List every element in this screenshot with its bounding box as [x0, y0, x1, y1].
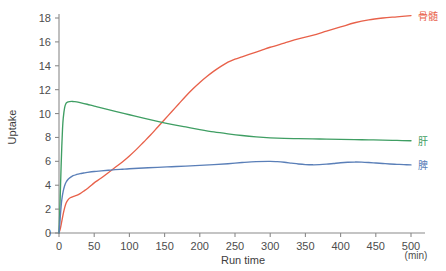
y-tick-label: 0 [45, 227, 51, 239]
y-tick-label: 14 [39, 60, 51, 72]
chart-container: 024681012141618 050100150200250300350400… [0, 0, 446, 271]
x-axis-tick-labels: 050100150200250300350400450500 [56, 240, 420, 252]
x-tick-label: 300 [261, 240, 279, 252]
series-label-2: 脾 [418, 159, 428, 171]
x-axis-title: Run time [221, 254, 265, 266]
y-tick-label: 2 [45, 203, 51, 215]
line-chart: 024681012141618 050100150200250300350400… [0, 0, 446, 271]
y-tick-label: 6 [45, 155, 51, 167]
x-tick-label: 400 [331, 240, 349, 252]
x-tick-label: 50 [88, 240, 100, 252]
y-tick-label: 12 [39, 84, 51, 96]
x-tick-label: 100 [120, 240, 138, 252]
y-tick-label: 16 [39, 36, 51, 48]
y-axis-ticks [55, 18, 59, 233]
series-line-0 [59, 16, 411, 233]
x-tick-label: 200 [191, 240, 209, 252]
x-tick-label: 250 [226, 240, 244, 252]
y-tick-label: 10 [39, 108, 51, 120]
y-tick-label: 4 [45, 179, 51, 191]
series-label-1: 肝 [418, 136, 428, 147]
x-tick-label: 150 [155, 240, 173, 252]
y-axis-tick-labels: 024681012141618 [39, 12, 51, 239]
x-axis-ticks [59, 233, 411, 237]
series-group [59, 16, 411, 233]
y-tick-label: 8 [45, 131, 51, 143]
series-line-1 [59, 101, 411, 233]
series-end-labels: 骨髄肝脾 [418, 10, 438, 171]
x-tick-label: 350 [296, 240, 314, 252]
y-axis-title: Uptake [6, 110, 18, 145]
y-tick-label: 18 [39, 12, 51, 24]
series-line-2 [59, 161, 411, 233]
x-tick-label: 0 [56, 240, 62, 252]
x-axis-unit-label: (min) [405, 250, 428, 261]
series-label-0: 骨髄 [418, 10, 438, 22]
x-tick-label: 450 [367, 240, 385, 252]
